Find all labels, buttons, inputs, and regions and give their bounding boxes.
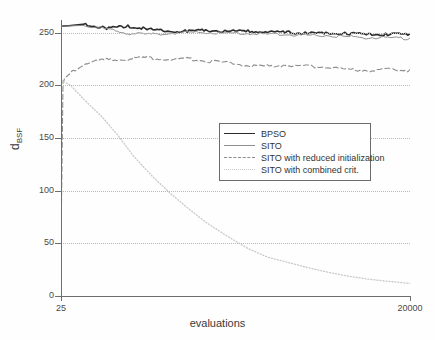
y-tick-label-wrap: 100 [0,186,54,195]
y-tick-label: 150 [0,133,54,142]
chart-legend: BPSO SITO SITO with reduced initializati… [219,123,371,181]
legend-item-sito-reduced-init: SITO with reduced initialization [223,152,367,163]
y-tick-label: 100 [0,186,54,195]
x-tick-mark [61,296,62,301]
legend-swatch-dotted-icon [223,165,256,174]
legend-label: SITO with reduced initialization [261,153,384,163]
series-line [61,80,410,283]
gridline [61,191,410,192]
chart-figure: dBSF 050100150200250 2520000 evaluations… [0,0,435,340]
gridline [61,85,410,86]
x-tick-label: 20000 [397,303,422,313]
legend-item-sito-combined-crit: SITO with combined crit. [223,164,367,175]
y-tick-label-wrap: 0 [0,291,54,300]
gridline [61,243,410,244]
y-tick-label: 200 [0,80,54,89]
gridline [61,33,410,34]
y-tick-label-wrap: 50 [0,238,54,247]
x-tick-mark [410,296,411,301]
legend-label: SITO [261,141,282,151]
y-tick-label: 0 [0,291,54,300]
legend-label: SITO with combined crit. [261,165,359,175]
legend-item-bpso: BPSO [223,128,367,139]
y-tick-label-wrap: 250 [0,28,54,37]
y-tick-label: 250 [0,28,54,37]
legend-swatch-solid-thick-icon [223,129,256,138]
x-axis-line [61,296,411,297]
x-tick-label: 25 [56,303,66,313]
legend-label: BPSO [261,129,286,139]
y-axis-label-base: d [8,143,22,150]
y-axis-line [61,20,62,297]
legend-swatch-dashed-icon [223,153,256,162]
legend-swatch-solid-thin-icon [223,141,256,150]
legend-item-sito: SITO [223,140,367,151]
y-tick-label-wrap: 200 [0,80,54,89]
y-tick-label-wrap: 150 [0,133,54,142]
y-tick-label: 50 [0,238,54,247]
x-axis-label: evaluations [0,317,435,329]
